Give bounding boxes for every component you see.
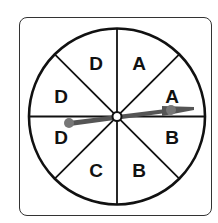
section-label: A xyxy=(165,86,179,107)
spinner: AABBCDDD xyxy=(0,0,218,223)
section-label: C xyxy=(89,160,103,181)
section-label: D xyxy=(54,86,68,107)
section-label: D xyxy=(89,53,103,74)
section-label: D xyxy=(54,127,68,148)
section-label: B xyxy=(165,127,179,148)
section-label: B xyxy=(132,160,146,181)
section-label: A xyxy=(132,53,146,74)
